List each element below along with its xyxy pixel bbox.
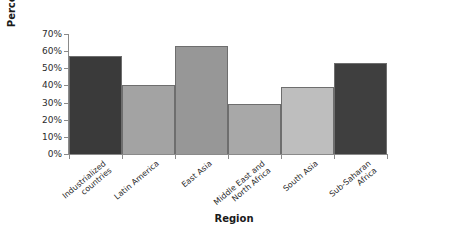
y-axis-tick [64, 137, 68, 138]
y-axis-title-text: Percentage [6, 0, 17, 27]
bar [281, 87, 334, 154]
y-axis-tick [64, 68, 68, 69]
y-axis-tick-label: 40% [42, 80, 62, 90]
y-axis-tick [64, 154, 68, 155]
y-axis-tick-label: 20% [42, 115, 62, 125]
y-axis-tick-label: 70% [42, 29, 62, 39]
y-axis-tick [64, 51, 68, 52]
y-axis-tick-label: 10% [42, 132, 62, 142]
y-axis-tick-label: 0% [48, 149, 62, 159]
bar [69, 56, 122, 154]
y-axis-tick-label: 30% [42, 98, 62, 108]
y-axis-tick-label: 60% [42, 46, 62, 56]
bar-series [69, 34, 388, 154]
bar [228, 104, 281, 154]
y-axis-tick-label: 50% [42, 63, 62, 73]
bar [175, 46, 228, 154]
y-axis-tick [64, 34, 68, 35]
bar-chart: Percentage 0%10%20%30%40%50%60%70% Indus… [0, 0, 452, 237]
y-axis-tick [64, 120, 68, 121]
bar [122, 85, 175, 154]
y-axis-title: Percentage [6, 0, 20, 45]
x-axis-title: Region [0, 213, 452, 224]
y-axis-tick [64, 85, 68, 86]
bar [334, 63, 387, 154]
y-axis-tick [64, 103, 68, 104]
x-axis-category-labels: Industrialized countriesLatin AmericaEas… [68, 157, 388, 217]
plot-area: 0%10%20%30%40%50%60%70% [68, 34, 388, 155]
x-axis-title-text: Region [214, 213, 253, 224]
